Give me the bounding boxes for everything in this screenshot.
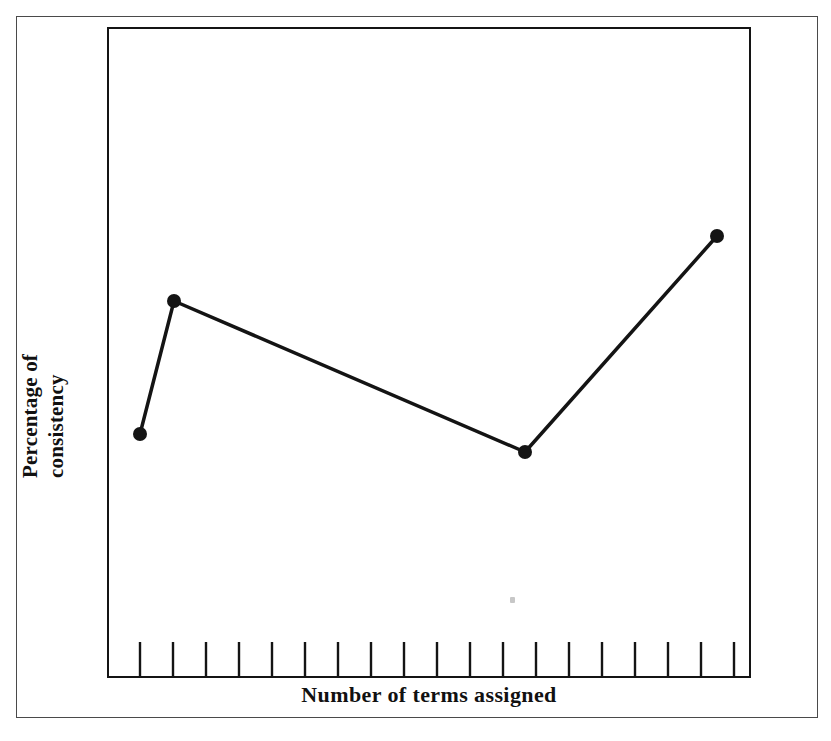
y-axis-label-line-1: Percentage of: [18, 354, 44, 478]
scan-speck: [510, 597, 515, 603]
y-axis-label: Percentage of consistency: [12, 248, 76, 478]
y-axis-label-line-2: consistency: [44, 374, 70, 478]
figure-page: Percentage of consistency Number of term…: [0, 0, 831, 741]
x-axis-label: Number of terms assigned: [107, 682, 751, 708]
plot-frame: [107, 27, 751, 678]
